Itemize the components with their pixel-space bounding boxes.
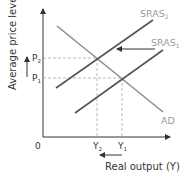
sras2-label: SRAS2 bbox=[140, 8, 169, 20]
sras1-label: SRAS1 bbox=[151, 37, 180, 49]
ad-label: AD bbox=[161, 115, 175, 126]
x-axis-title: Real output (Y) bbox=[105, 161, 180, 172]
p2-label: P2 bbox=[32, 53, 41, 64]
y2-label: Y2 bbox=[92, 141, 102, 152]
y-axis-title: Average price level bbox=[7, 0, 18, 90]
p1-label: P1 bbox=[32, 73, 41, 84]
sras1-curve bbox=[75, 50, 163, 113]
ad-curve bbox=[57, 26, 163, 112]
ad-as-diagram: SRAS2 SRAS1 AD P2 P1 Y2 Y1 0 Real output… bbox=[0, 0, 185, 180]
y1-label: Y1 bbox=[117, 141, 127, 152]
origin-label: 0 bbox=[35, 141, 41, 151]
axes bbox=[43, 9, 170, 137]
